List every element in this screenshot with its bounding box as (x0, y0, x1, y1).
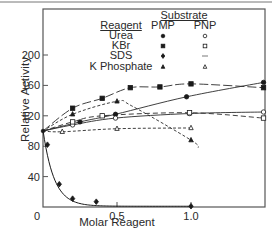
y-axis-label: Relative Activity (20, 56, 31, 142)
open-circle-marker-icon (203, 34, 207, 38)
filled-square-marker-icon (100, 96, 104, 100)
series-line (43, 130, 191, 206)
filled-square-marker-icon (161, 44, 165, 48)
y-axis-ticks (43, 55, 48, 177)
filled-circle-marker-icon (184, 95, 188, 99)
filled-triangle-marker-icon (161, 65, 165, 69)
series-markers (41, 80, 266, 209)
filled-circle-marker-icon (261, 80, 265, 84)
filled-circle-marker-icon (161, 34, 165, 38)
filled-square-marker-icon (128, 85, 132, 89)
filled-circle-marker-icon (41, 129, 45, 133)
filled-diamond-marker-icon (161, 54, 165, 59)
filled-triangle-marker-icon (189, 137, 193, 141)
open-square-marker-icon (70, 120, 74, 124)
plot-area (0, 0, 272, 236)
legend-col-pmp: PMP (151, 20, 175, 31)
filled-triangle-marker-icon (115, 99, 119, 103)
open-circle-marker-icon (113, 116, 117, 120)
x-tick-label: 0 (34, 211, 40, 222)
legend-markers (161, 34, 208, 68)
open-square-marker-icon (100, 114, 104, 118)
y-tick-label: 40 (14, 172, 40, 183)
plot-frame (43, 9, 265, 207)
open-triangle-marker-icon (189, 125, 193, 129)
filled-square-marker-icon (158, 85, 162, 89)
filled-square-marker-icon (70, 106, 74, 110)
series-lines (43, 82, 264, 206)
series-line (43, 100, 198, 147)
filled-square-marker-icon (261, 85, 265, 89)
legend-col-pnp: PNP (194, 20, 217, 31)
open-triangle-marker-icon (115, 126, 119, 130)
legend-row-k-phosphate: K Phosphate (90, 61, 153, 72)
open-square-marker-icon (203, 44, 207, 48)
filled-square-marker-icon (189, 82, 193, 86)
filled-circle-marker-icon (78, 120, 82, 124)
y-tick-label: 80 (14, 141, 40, 152)
open-triangle-marker-icon (203, 65, 207, 69)
filled-diamond-marker-icon (94, 199, 98, 205)
open-circle-marker-icon (261, 110, 265, 114)
x-tick-label: 1.0 (183, 211, 198, 222)
filled-triangle-marker-icon (70, 112, 74, 116)
chart: 4080120160200 00.51.0 Relative Activity … (0, 0, 272, 236)
x-axis-label: Molar Reagent (79, 217, 154, 228)
open-square-marker-icon (187, 111, 191, 115)
open-triangle-marker-icon (60, 129, 64, 133)
open-square-marker-icon (261, 116, 265, 120)
filled-diamond-marker-icon (189, 203, 193, 209)
